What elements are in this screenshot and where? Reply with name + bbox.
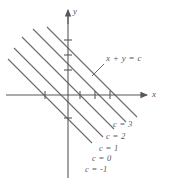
level-label-3: c = 0 [92,153,112,163]
equation-annotation-label: x + y = c [106,53,142,63]
x-axis-label: x [152,89,156,99]
level-line-1 [33,29,126,122]
level-label-2: c = 1 [99,143,119,153]
level-line-0 [47,27,137,117]
diagram-svg [0,0,172,184]
level-label-0: c = 3 [113,119,133,129]
level-label-4: c = -1 [85,164,108,174]
level-label-1: c = 2 [106,131,126,141]
level-line-4 [8,59,92,143]
y-axis-label: y [73,6,77,16]
axes-group [6,10,147,178]
annotation-leader-line [92,64,104,76]
figure-canvas: x y x + y = c c = 3c = 2c = 1c = 0c = -1 [0,0,172,184]
level-line-3 [14,48,103,137]
